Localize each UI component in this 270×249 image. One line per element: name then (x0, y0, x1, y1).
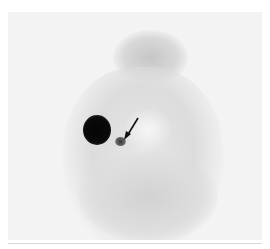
divider (8, 243, 262, 244)
arrow-icon (120, 116, 142, 142)
lower-region (78, 152, 218, 240)
scan-image (8, 12, 262, 240)
large-hot-focus (83, 115, 111, 145)
